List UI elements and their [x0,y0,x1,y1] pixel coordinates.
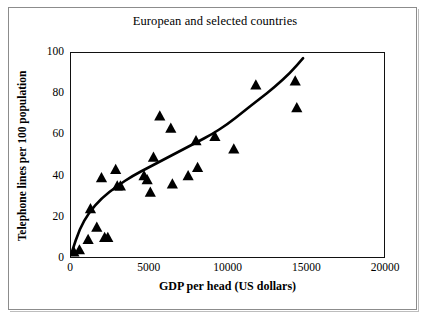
data-point-marker [96,172,107,182]
data-point-marker [110,164,121,174]
data-point-marker [290,75,301,85]
data-point-marker [183,170,194,180]
data-point-marker [192,162,203,172]
y-tick-label: 100 [30,46,64,57]
data-point-marker [148,151,159,161]
data-markers [70,75,302,256]
x-tick-label: 10000 [198,262,258,273]
x-tick-label: 15000 [276,262,336,273]
trend-line-path [72,58,303,252]
data-point-marker [167,178,178,188]
y-axis-label-wrap: Telephone lines per 100 population [0,0,1,1]
y-tick-label: 80 [30,87,64,98]
x-tick-label: 5000 [119,262,179,273]
chart-page: European and selected countries 02040608… [0,0,430,321]
x-axis-label: GDP per head (US dollars) [70,279,385,294]
data-point-marker [154,110,165,120]
data-point-marker [165,123,176,133]
trend-line [72,58,303,252]
plot-svg [70,52,385,258]
x-tick-label: 0 [40,262,100,273]
data-point-marker [250,79,261,89]
y-axis-label: Telephone lines per 100 population [16,56,28,256]
data-point-marker [83,234,94,244]
y-tick-label: 60 [30,128,64,139]
y-tick-label: 20 [30,211,64,222]
data-point-marker [291,102,302,112]
y-tick-label: 40 [30,170,64,181]
x-tick-label: 20000 [355,262,415,273]
chart-title: European and selected countries [0,14,430,29]
data-point-marker [91,222,102,232]
data-point-marker [228,143,239,153]
data-point-marker [145,186,156,196]
